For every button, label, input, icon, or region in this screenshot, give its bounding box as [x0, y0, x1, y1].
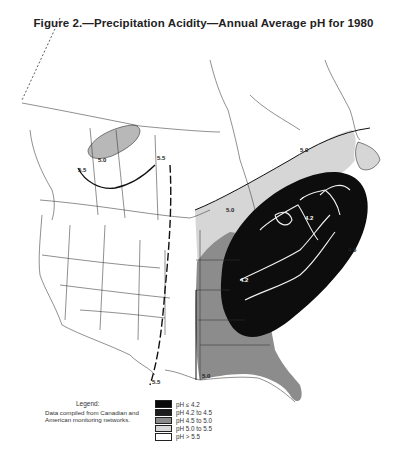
isoline-label-manitoba-55: 5.5 [157, 155, 166, 161]
isoline-label-canada-50: 5.0 [98, 157, 107, 163]
legend-swatch [155, 425, 172, 433]
legend-note: Data compiled from Canadian and American… [45, 409, 145, 423]
legend-label: pH ≤ 4.2 [176, 401, 200, 408]
isoline-label-eastern-45: 4.5 [348, 247, 357, 253]
legend-label: pH 5.0 to 5.5 [176, 425, 212, 432]
legend: pH ≤ 4.2 pH 4.2 to 4.5 pH 4.5 to 5.0 pH … [155, 400, 212, 441]
isoline-label-gulf-50: 5.0 [202, 373, 211, 379]
isoline-west-dashed-55 [150, 165, 171, 385]
legend-swatch [155, 417, 172, 425]
region-canada-west-5.0 [88, 125, 140, 158]
isoline-label-southwest-55: 5.5 [152, 379, 161, 385]
legend-title: Legend: [76, 400, 100, 407]
isoline-label-ohio-42: 4.2 [240, 277, 249, 283]
alaska-boundary-dotted [22, 18, 60, 100]
isoline-label-canada-55: 5.5 [78, 167, 87, 173]
legend-item: pH ≤ 4.2 [155, 400, 212, 408]
legend-item: pH 4.2 to 4.5 [155, 408, 212, 416]
legend-swatch [155, 409, 172, 417]
isoline-canada-55 [78, 165, 155, 188]
legend-swatch [155, 400, 172, 408]
legend-item: pH > 5.5 [155, 433, 212, 441]
isoline-label-quebec-50: 5.0 [300, 147, 309, 153]
legend-swatch [155, 433, 172, 441]
legend-item: pH 5.0 to 5.5 [155, 425, 212, 433]
isoline-label-great-lakes-50: 5.0 [226, 207, 235, 213]
precipitation-ph-map: 5.0 5.5 5.5 5.0 4.5 4.2 4.2 5.0 5.5 5.0 [0, 0, 407, 457]
legend-item: pH 4.5 to 5.0 [155, 416, 212, 424]
legend-label: pH 4.5 to 5.0 [176, 417, 212, 424]
isoline-label-northeast-42: 4.2 [305, 215, 314, 221]
legend-label: pH 4.2 to 4.5 [176, 409, 212, 416]
legend-label: pH > 5.5 [176, 433, 200, 440]
region-newfoundland [356, 142, 380, 170]
